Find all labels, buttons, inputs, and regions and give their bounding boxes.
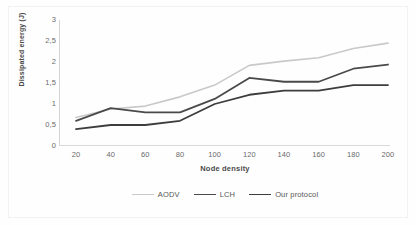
x-tick-label: 80 (167, 150, 193, 159)
legend-label: LCH (220, 190, 235, 199)
legend-label: AODV (158, 190, 180, 199)
legend-item-lch[interactable]: LCH (194, 190, 235, 199)
legend-swatch-icon (132, 194, 154, 196)
legend-swatch-icon (249, 194, 271, 196)
legend-item-aodv[interactable]: AODV (132, 190, 180, 199)
plot-area (60, 20, 390, 146)
series-line-our-protocol (76, 85, 388, 129)
x-tick-label: 20 (63, 150, 89, 159)
y-axis-title: Dissipated energy (J) (18, 3, 25, 97)
legend-item-our-protocol[interactable]: Our protocol (249, 190, 318, 199)
x-tick-label: 180 (340, 150, 366, 159)
y-axis-tick-labels: 00,511,522,53 (26, 0, 56, 225)
legend-swatch-icon (194, 194, 216, 196)
x-tick-label: 40 (98, 150, 124, 159)
plot-series-svg (60, 20, 390, 146)
y-tick-label: 0 (30, 142, 56, 150)
x-axis-title: Node density (60, 164, 390, 173)
y-tick-label: 2 (30, 58, 56, 66)
x-tick-label: 200 (375, 150, 401, 159)
series-line-aodv (76, 43, 388, 117)
series-line-lch (76, 65, 388, 121)
chart-legend: AODVLCHOur protocol (60, 190, 390, 199)
y-tick-label: 3 (30, 16, 56, 24)
line-chart: 00,511,522,53 Dissipated energy (J) 2040… (0, 0, 416, 225)
y-tick-label: 2,5 (30, 37, 56, 45)
x-tick-label: 140 (271, 150, 297, 159)
y-tick-label: 0,5 (30, 121, 56, 129)
legend-label: Our protocol (275, 190, 318, 199)
y-tick-label: 1,5 (30, 79, 56, 87)
x-tick-label: 100 (202, 150, 228, 159)
x-tick-label: 160 (306, 150, 332, 159)
y-tick-label: 1 (30, 100, 56, 108)
x-tick-label: 120 (236, 150, 262, 159)
x-tick-label: 60 (132, 150, 158, 159)
